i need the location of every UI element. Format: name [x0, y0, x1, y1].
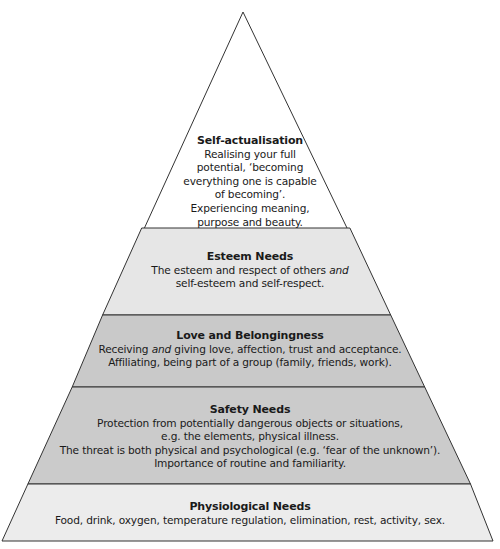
tier-line: Food, drink, oxygen, temperature regulat…	[0, 514, 500, 528]
tier-line: Receiving and giving love, affection, tr…	[0, 343, 500, 357]
tier-self-actualisation: Self-actualisation Realising your full p…	[0, 134, 500, 229]
tier-line: purpose and beauty.	[0, 216, 500, 230]
tier-love: Love and Belongingness Receiving and giv…	[0, 329, 500, 370]
tier-title: Self-actualisation	[0, 134, 500, 148]
tier-line: of becoming’.	[0, 188, 500, 202]
tier-line: Realising your full	[0, 148, 500, 162]
tier-title: Esteem Needs	[0, 250, 500, 264]
tier-line: The esteem and respect of others and	[0, 264, 500, 278]
tier-title: Safety Needs	[0, 403, 500, 417]
tier-physiological: Physiological Needs Food, drink, oxygen,…	[0, 500, 500, 527]
tier-line: Importance of routine and familiarity.	[0, 457, 500, 471]
tier-line: potential, ‘becoming	[0, 161, 500, 175]
tier-title: Love and Belongingness	[0, 329, 500, 343]
tier-safety: Safety Needs Protection from potentially…	[0, 403, 500, 471]
tier-text-run: giving love, affection, trust and accept…	[174, 343, 401, 355]
tier-esteem: Esteem Needs The esteem and respect of o…	[0, 250, 500, 291]
tier-line: self-esteem and self-respect.	[0, 277, 500, 291]
tier-title: Physiological Needs	[0, 500, 500, 514]
tier-text-run: The esteem and respect of others	[151, 264, 326, 276]
tier-line: everything one is capable	[0, 175, 500, 189]
tier-text-emphasis: and	[152, 343, 171, 355]
tier-line: Experiencing meaning,	[0, 202, 500, 216]
tier-line: The threat is both physical and psycholo…	[0, 444, 500, 458]
tier-line: Affiliating, being part of a group (fami…	[0, 356, 500, 370]
tier-line: Protection from potentially dangerous ob…	[0, 417, 500, 431]
tier-text-run: Receiving	[98, 343, 148, 355]
tier-text-emphasis: and	[329, 264, 348, 276]
tier-line: e.g. the elements, physical illness.	[0, 430, 500, 444]
